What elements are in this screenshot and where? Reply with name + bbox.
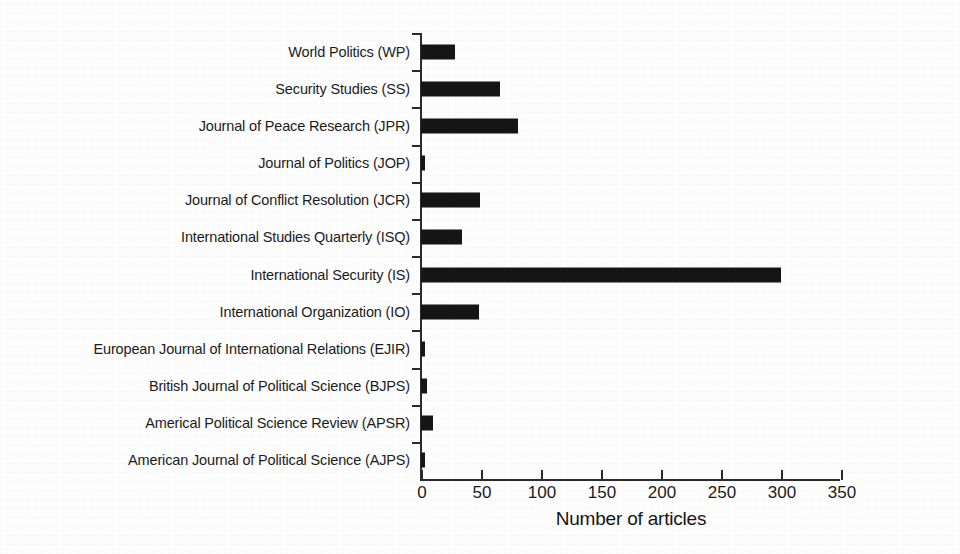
bar-row: International Security (IS) [0, 256, 960, 293]
bar [421, 304, 479, 319]
x-axis-tick-label: 50 [473, 483, 492, 503]
bar [421, 230, 462, 245]
bar-row: Security Studies (SS) [0, 70, 960, 107]
category-label: International Organization (IO) [220, 304, 410, 320]
x-axis-line [420, 479, 840, 481]
bar-row: Americal Political Science Review (APSR) [0, 405, 960, 442]
category-label: American Journal of Political Science (A… [128, 452, 410, 468]
y-axis-tick [412, 107, 421, 109]
bar [421, 44, 455, 59]
bar-row: European Journal of International Relati… [0, 330, 960, 367]
bar-chart-plot: World Politics (WP)Security Studies (SS)… [0, 0, 960, 554]
x-axis-tick [541, 470, 543, 480]
x-axis-tick-label: 250 [708, 483, 736, 503]
y-axis-tick [412, 293, 421, 295]
bar-row: World Politics (WP) [0, 33, 960, 70]
x-axis-tick [421, 470, 423, 480]
category-label: Security Studies (SS) [275, 81, 410, 97]
y-axis-tick [412, 368, 421, 370]
x-axis-tick-label: 100 [528, 483, 556, 503]
bar-row: International Studies Quarterly (ISQ) [0, 219, 960, 256]
x-axis-tick [481, 470, 483, 480]
category-label: Journal of Conflict Resolution (JCR) [185, 192, 410, 208]
x-axis-tick [841, 470, 843, 480]
x-axis-tick-label: 150 [588, 483, 616, 503]
bar-row: International Organization (IO) [0, 293, 960, 330]
bar-row: Journal of Peace Research (JPR) [0, 107, 960, 144]
y-axis-tick [412, 145, 421, 147]
y-axis-tick [412, 182, 421, 184]
category-label: British Journal of Political Science (BJ… [149, 378, 410, 394]
y-axis-tick [412, 330, 421, 332]
bar [421, 267, 781, 282]
x-axis-tick-label: 300 [768, 483, 796, 503]
bar [421, 379, 427, 394]
y-axis-tick [412, 256, 421, 258]
bar [421, 416, 433, 431]
x-axis-tick [781, 470, 783, 480]
x-axis-tick [661, 470, 663, 480]
bar [421, 453, 425, 468]
x-axis-tick-label: 200 [648, 483, 676, 503]
chart-page: World Politics (WP)Security Studies (SS)… [0, 0, 960, 554]
bar [421, 193, 480, 208]
category-label: Americal Political Science Review (APSR) [145, 415, 410, 431]
bar [421, 81, 500, 96]
category-label: European Journal of International Relati… [93, 341, 410, 357]
x-axis-tick-label: 0 [417, 483, 426, 503]
bar [421, 341, 425, 356]
bar-row: Journal of Politics (JOP) [0, 145, 960, 182]
bar-row: British Journal of Political Science (BJ… [0, 368, 960, 405]
category-label: World Politics (WP) [288, 44, 410, 60]
y-axis-tick [412, 442, 421, 444]
category-label: International Studies Quarterly (ISQ) [181, 229, 410, 245]
bar [421, 118, 518, 133]
bar-row: American Journal of Political Science (A… [0, 442, 960, 479]
category-label: International Security (IS) [250, 267, 410, 283]
bar-row: Journal of Conflict Resolution (JCR) [0, 182, 960, 219]
y-axis-tick [412, 219, 421, 221]
x-axis-title: Number of articles [421, 508, 841, 530]
x-axis-tick [601, 470, 603, 480]
category-label: Journal of Peace Research (JPR) [199, 118, 410, 134]
x-axis-tick [721, 470, 723, 480]
y-axis-tick [412, 33, 421, 35]
y-axis-tick [412, 405, 421, 407]
category-label: Journal of Politics (JOP) [258, 155, 410, 171]
x-axis-tick-label: 350 [828, 483, 856, 503]
bar [421, 156, 425, 171]
y-axis-tick [412, 70, 421, 72]
